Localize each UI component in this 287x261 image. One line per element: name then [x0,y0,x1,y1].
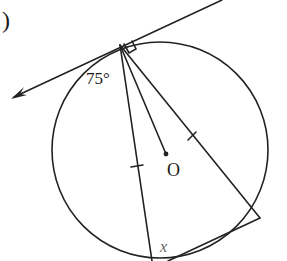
tick-mark-left-chord [131,165,143,167]
part-marker: ) [2,7,10,33]
center-point [164,152,169,157]
angle-label: 75° [86,69,110,88]
chord-bottom [168,218,260,261]
circle-geometry-diagram: ) 75° O x [0,0,287,261]
unknown-angle-label: x [159,238,167,255]
arrowhead-icon [11,87,27,99]
tangent-line [14,0,222,97]
radius-line [120,45,166,154]
center-label: O [167,160,180,180]
circle [52,42,268,258]
